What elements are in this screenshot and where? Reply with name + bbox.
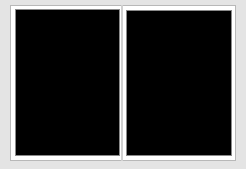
right-page-panel[interactable] bbox=[126, 10, 232, 156]
left-page-panel[interactable] bbox=[15, 9, 120, 156]
page-divider bbox=[121, 5, 123, 161]
